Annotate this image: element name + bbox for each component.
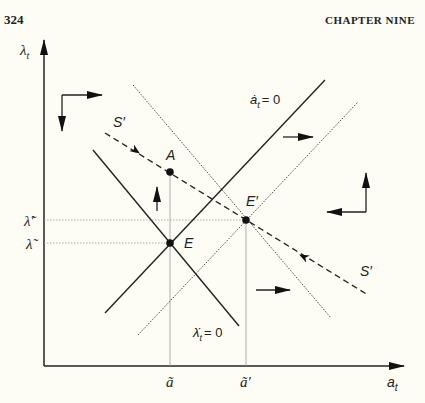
label-E: E bbox=[184, 235, 194, 251]
label-a-dot-zero: ȧt= 0 bbox=[250, 92, 280, 110]
y-tick-lambda: λ̃ bbox=[25, 236, 38, 252]
label-lambda-dot-zero: λ̇t= 0 bbox=[192, 325, 222, 343]
a-dot-zero-line bbox=[105, 80, 325, 313]
label-saddle-bottom: S′ bbox=[360, 263, 373, 279]
x-tick-a-prime: ã′ bbox=[240, 374, 252, 390]
saddle-arrow-in bbox=[125, 143, 139, 153]
point-E bbox=[166, 239, 174, 247]
x-tick-a: ã bbox=[166, 374, 174, 390]
phase-arrow-top-left bbox=[62, 95, 102, 131]
label-A: A bbox=[165, 147, 175, 163]
point-E-prime bbox=[242, 216, 250, 224]
lambda-dot-zero-line bbox=[93, 150, 239, 326]
phase-arrow-right bbox=[327, 173, 366, 212]
x-axis-label: at bbox=[387, 374, 399, 393]
point-A bbox=[166, 168, 174, 176]
y-axis-label: λt bbox=[19, 42, 30, 61]
y-tick-lambda-prime: λ̃′ bbox=[23, 213, 36, 229]
label-E-prime: E′ bbox=[246, 193, 259, 209]
lambda-dot-zero-shifted-line bbox=[133, 85, 331, 318]
label-saddle-top: S′ bbox=[113, 114, 126, 130]
phase-diagram: A E E′ S′ S′ ȧt= 0 λ̇t= 0 λt at λ̃′ λ̃ ã… bbox=[0, 0, 425, 403]
axes bbox=[44, 40, 404, 366]
